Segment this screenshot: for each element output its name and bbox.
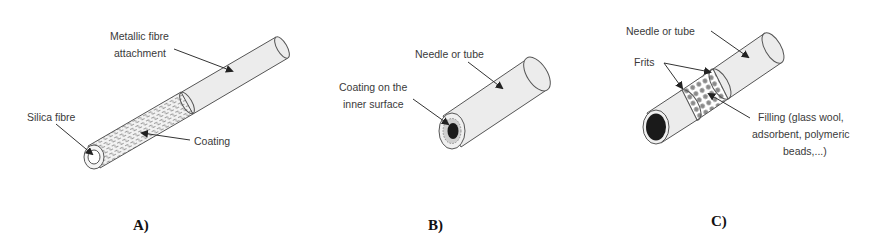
needle-tube-right — [713, 29, 788, 99]
label-metallic-fibre-line1: Metallic fibre — [110, 30, 169, 42]
panel-b: Needle or tube Coating on the inner surf… — [339, 48, 556, 234]
arrow-needle — [468, 62, 502, 88]
arrow-coating-inner — [413, 99, 448, 124]
caption-c: C) — [711, 213, 727, 230]
label-filling-line2: adsorbent, polymeric — [752, 128, 849, 140]
label-filling-line3: beads,...) — [783, 145, 827, 157]
arrow-frits-right — [664, 63, 710, 72]
arrow-metallic — [174, 49, 232, 71]
caption-a: A) — [133, 217, 149, 234]
label-needle-or-tube: Needle or tube — [415, 48, 484, 60]
label-coating: Coating — [194, 135, 230, 147]
panel-a: Metallic fibre attachment Silica fibre C… — [27, 30, 292, 234]
spme-device-diagram: Metallic fibre attachment Silica fibre C… — [0, 0, 885, 245]
label-metallic-fibre-line2: attachment — [114, 47, 166, 59]
arrow-frits-left — [664, 63, 682, 88]
caption-b: B) — [428, 217, 443, 234]
silica-fibre-end — [84, 145, 104, 169]
metallic-fibre-attachment — [180, 35, 292, 114]
label-silica-fibre: Silica fibre — [27, 111, 76, 123]
arrow-silica — [56, 124, 92, 154]
panel-c: Needle or tube Frits Filling (glass wool… — [626, 25, 849, 230]
label-needle-or-tube-c: Needle or tube — [626, 25, 695, 37]
arrow-needle-c — [711, 31, 748, 57]
label-coating-inner-line1: Coating on the — [339, 81, 407, 93]
label-frits: Frits — [634, 56, 654, 68]
tube-opening-with-coating — [439, 113, 465, 149]
label-coating-inner-line2: inner surface — [343, 98, 404, 110]
label-filling-line1: Filling (glass wool, — [758, 111, 844, 123]
